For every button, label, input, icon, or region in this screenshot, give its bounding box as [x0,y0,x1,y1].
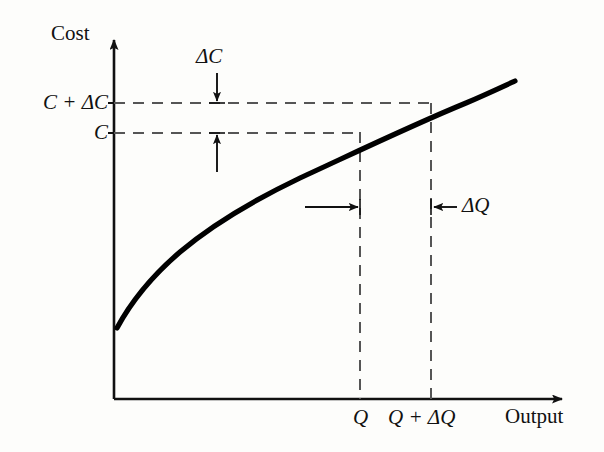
total-cost-curve [117,81,515,328]
y-tick-label-c-plus-delta-c: C + ΔC [43,92,108,113]
figure-canvas [0,0,604,452]
x-axis-title: Output [505,406,563,427]
y-axis-title: Cost [51,23,90,44]
y-tick-label-c: C [94,122,108,143]
delta-c-annotation-label: ΔC [196,46,222,67]
x-tick-label-q-plus-delta-q: Q + ΔQ [388,407,455,428]
delta-q-annotation-label: ΔQ [462,195,490,216]
x-tick-label-q: Q [353,407,368,428]
cost-curve-figure: Cost Output C + ΔC C Q Q + ΔQ ΔC ΔQ [0,0,604,452]
